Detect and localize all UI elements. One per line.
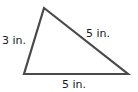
bottom-side-label: 5 in.: [62, 79, 86, 90]
triangle: [24, 8, 128, 74]
left-side-label: 3 in.: [2, 35, 26, 46]
right-side-label: 5 in.: [86, 28, 110, 39]
